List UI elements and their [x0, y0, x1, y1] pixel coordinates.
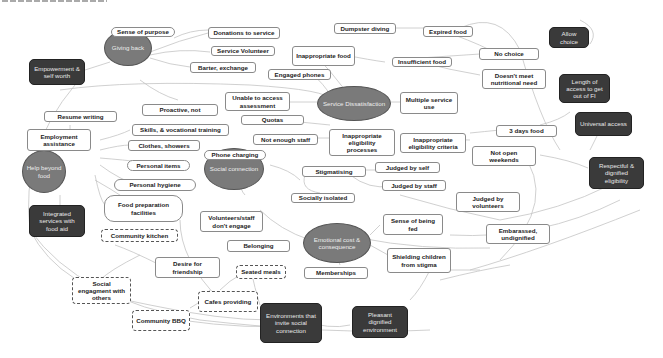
- node-barter[interactable]: Barter, exchange: [190, 62, 256, 73]
- node-3-days-food[interactable]: 3 days food: [496, 125, 557, 137]
- node-insufficient-food[interactable]: Insufficient food: [392, 57, 452, 67]
- node-unable-to-access-assessment[interactable]: Unable to access assessment: [225, 92, 290, 111]
- node-clothes-showers[interactable]: Clothes, showers: [128, 140, 200, 151]
- node-not-enough-staff[interactable]: Not enough staff: [253, 134, 318, 145]
- node-community-kitchen[interactable]: Community kitchen: [101, 229, 178, 242]
- node-skills-training[interactable]: Skills, & vocational training: [132, 124, 229, 136]
- node-embarrassed-undignified[interactable]: Embarassed, undignified: [486, 224, 550, 244]
- node-personal-items[interactable]: Personal items: [127, 160, 190, 171]
- outcome-empowerment[interactable]: Empowerment & self worth: [29, 59, 85, 85]
- node-seated-meals[interactable]: Seated meals: [236, 265, 286, 279]
- node-phone-charging[interactable]: Phone charging: [204, 150, 266, 160]
- node-desire-for-friendship[interactable]: Desire for friendship: [155, 257, 220, 278]
- node-personal-hygiene[interactable]: Personal hygiene: [114, 179, 196, 191]
- node-expired-food[interactable]: Expired food: [423, 26, 473, 37]
- node-dumpster-diving[interactable]: Dumpster diving: [334, 23, 396, 34]
- node-socially-isolated[interactable]: Socially isolated: [291, 193, 355, 203]
- node-not-open-weekends[interactable]: Not open weekends: [472, 146, 536, 166]
- theme-emotional-cost[interactable]: Emotional cost & consequence: [303, 223, 371, 263]
- node-proactive[interactable]: Proactive, not: [142, 104, 218, 116]
- node-inappropriate-criteria[interactable]: Inappropriate eligibility criteria: [400, 133, 466, 153]
- node-sense-of-being-fed[interactable]: Sense of being fed: [383, 214, 443, 235]
- theme-service-dissatisfaction[interactable]: Service Dissatisfaction: [317, 86, 391, 121]
- node-cafes-providing[interactable]: Cafes providing: [198, 291, 258, 312]
- node-food-preparation[interactable]: Food preparation facilities: [104, 195, 183, 222]
- node-resume-writing[interactable]: Resume writing: [44, 111, 117, 122]
- node-memberships[interactable]: Memberships: [304, 267, 368, 279]
- outcome-integrated-services[interactable]: Integrated services with food aid: [29, 205, 85, 237]
- node-judged-by-staff[interactable]: Judged by staff: [382, 180, 446, 191]
- node-judged-by-volunteers[interactable]: Judged by volunteers: [456, 192, 520, 212]
- node-social-engagement[interactable]: Social engagment with others: [72, 277, 131, 304]
- node-shielding-children[interactable]: Shielding children from stigma: [387, 248, 451, 273]
- outcome-pleasant-environment[interactable]: Pleasant dignified environment: [352, 306, 408, 338]
- outcome-environments-social[interactable]: Environments that invite social connecti…: [260, 303, 322, 343]
- node-donations[interactable]: Donations to service: [208, 27, 280, 39]
- node-stigmatising[interactable]: Stigmatising: [302, 166, 366, 177]
- node-employment-assistance[interactable]: Employment assistance: [27, 129, 91, 151]
- node-belonging[interactable]: Belonging: [227, 240, 290, 252]
- outcome-universal-access[interactable]: Universal access: [575, 112, 632, 136]
- node-sense-of-purpose[interactable]: Sense of purpose: [111, 27, 175, 37]
- node-multiple-service-use[interactable]: Multiple service use: [400, 92, 458, 114]
- outcome-allow-choice[interactable]: Allow choice: [549, 27, 589, 48]
- node-inappropriate-processes[interactable]: Inappropriate eligibility processes: [329, 129, 395, 156]
- node-service-volunteer[interactable]: Service Volunteer: [211, 46, 275, 56]
- node-community-bbq[interactable]: Community BBQ: [132, 310, 190, 331]
- node-no-choice[interactable]: No choice: [479, 48, 539, 60]
- node-engaged-phones[interactable]: Engaged phones: [268, 69, 331, 80]
- theme-help-beyond-food[interactable]: Help beyond food: [22, 150, 66, 193]
- node-inappropriate-food[interactable]: Inappropriate food: [292, 46, 355, 66]
- concept-map-canvas: Giving back Service Dissatisfaction Help…: [0, 0, 663, 358]
- node-nutritional-need[interactable]: Doesn't meet nutritional need: [482, 69, 546, 89]
- outcome-respectful-eligibility[interactable]: Respectful & dignified eligibility: [589, 157, 644, 189]
- node-volunteers-dont-engage[interactable]: Volunteers/staff don't engage: [200, 211, 263, 232]
- node-judged-by-self[interactable]: Judged by self: [375, 162, 440, 173]
- outcome-length-of-access[interactable]: Length of access to get out of FI: [559, 74, 610, 103]
- node-quotas[interactable]: Quotas: [241, 115, 304, 125]
